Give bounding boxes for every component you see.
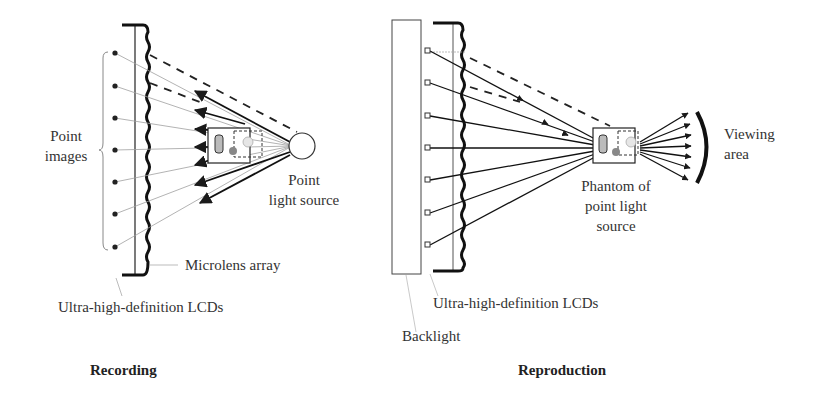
recording-lcds-label: Ultra-high-definition LCDs [58, 297, 223, 317]
reproduction-diverging-rays [640, 113, 691, 180]
reproduction-caption: Reproduction [518, 362, 606, 379]
point-images-label-line1: Point [36, 126, 96, 146]
point-light-source [289, 133, 315, 159]
recording-caption: Recording [90, 362, 157, 379]
point-image-dot [112, 83, 117, 88]
point-light-source-label-line2: light source [254, 190, 354, 210]
diagram-canvas [0, 0, 832, 414]
viewing-area-arc [697, 112, 707, 183]
lcd-leader-line [116, 278, 122, 296]
pixel-point [425, 145, 430, 150]
reproduction-dashed-rays [470, 58, 610, 126]
point-image-dot [112, 115, 117, 120]
backlight-label: Backlight [402, 326, 460, 346]
reproduction-point-images [425, 48, 430, 247]
viewing-area-label-line2: area [724, 144, 775, 164]
pixel-point [425, 210, 430, 215]
pixel-point [425, 113, 430, 118]
point-images-label-line2: images [36, 146, 96, 166]
backlight-leader-line [406, 275, 416, 332]
pixel-point [425, 242, 430, 247]
phantom-label-line2: point light [568, 196, 664, 216]
phantom-object-icon [593, 128, 638, 163]
point-image-dot [112, 147, 117, 152]
pixel-point [425, 177, 430, 182]
recording-dashed-rays [150, 55, 297, 132]
reproduction-lcds-label: Ultra-high-definition LCDs [433, 293, 598, 313]
phantom-label-line1: Phantom of [568, 176, 664, 196]
phantom-label: Phantom of point light source [568, 176, 664, 236]
point-image-dot [112, 179, 117, 184]
backlight-panel [392, 20, 421, 274]
pixel-point [425, 48, 430, 53]
point-images-label: Point images [36, 126, 96, 166]
pixel-point [425, 80, 430, 85]
phantom-label-line3: source [568, 216, 664, 236]
point-images-brace [99, 52, 108, 250]
viewing-area-label-line1: Viewing [724, 124, 775, 144]
point-image-dot [112, 244, 117, 249]
recording-faint-rays [115, 53, 292, 247]
microlens-array-label: Microlens array [185, 255, 280, 275]
point-image-dot [112, 211, 117, 216]
viewing-area-label: Viewing area [724, 124, 775, 164]
point-image-dot [112, 50, 117, 55]
recording-point-images [112, 50, 117, 249]
reproduction-microlens-array [433, 23, 465, 271]
point-light-source-label-line1: Point [254, 170, 354, 190]
point-light-source-label: Point light source [254, 170, 354, 210]
